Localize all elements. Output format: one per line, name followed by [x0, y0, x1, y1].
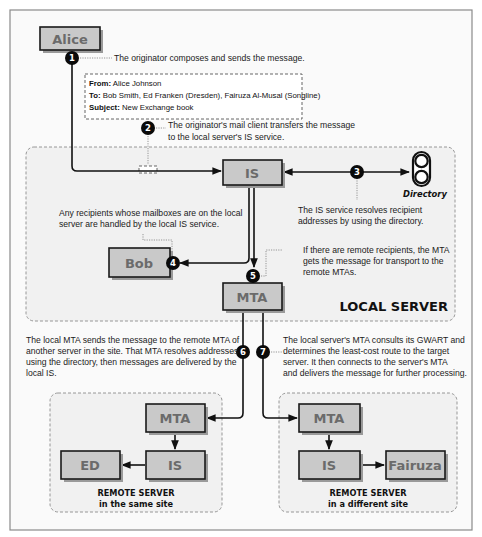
step-marker-1: 1 [65, 51, 79, 65]
remote-same-site-title: REMOTE SERVER [97, 488, 175, 498]
note-step-1: The originator composes and sends the me… [114, 53, 305, 63]
svg-text:1: 1 [69, 53, 75, 63]
message-packet [139, 166, 157, 173]
note-step-3: The IS service resolves recipient addres… [298, 205, 425, 226]
note-step-7: The local server's MTA consults its GWAR… [283, 335, 467, 378]
node-remote1-mta: MTA [146, 404, 208, 435]
step-marker-4: 4 [166, 256, 180, 270]
message-to: To: Bob Smith, Ed Franken (Dresden), Fai… [89, 91, 321, 100]
step-marker-5: 5 [246, 269, 260, 283]
svg-text:IS: IS [168, 458, 182, 473]
node-remote2-mta: MTA [299, 404, 363, 435]
svg-text:IS: IS [245, 166, 259, 181]
remote-same-site-subtitle: in the same site [99, 499, 174, 509]
routing-diagram: LOCAL SERVER REMOTE SERVER in the same s… [0, 0, 482, 537]
svg-text:Fairuza: Fairuza [388, 458, 441, 473]
directory-icon [413, 152, 430, 186]
svg-text:MTA: MTA [237, 290, 268, 305]
node-ed: ED [61, 451, 123, 482]
svg-text:2: 2 [145, 123, 151, 133]
svg-text:IS: IS [322, 458, 336, 473]
node-bob: Bob [109, 248, 173, 280]
step-marker-3: 3 [350, 165, 364, 179]
svg-text:Alice: Alice [52, 32, 88, 47]
svg-text:5: 5 [250, 271, 256, 281]
message-subject: Subject: New Exchange book [89, 103, 194, 112]
svg-text:MTA: MTA [160, 411, 191, 426]
svg-text:7: 7 [260, 347, 266, 357]
node-remote2-is: IS [299, 451, 363, 482]
remote-diff-site-title: REMOTE SERVER [329, 488, 407, 498]
local-server-title: LOCAL SERVER [340, 299, 449, 314]
svg-text:ED: ED [80, 458, 100, 473]
remote-diff-site-subtitle: in a different site [328, 499, 408, 509]
node-remote1-is: IS [146, 451, 208, 482]
node-local-is: IS [223, 160, 285, 188]
note-step-4: Any recipients whose mailboxes are on th… [59, 208, 245, 229]
node-local-mta: MTA [223, 283, 285, 313]
svg-text:3: 3 [354, 167, 360, 177]
node-fairuza: Fairuza [386, 451, 448, 482]
svg-text:4: 4 [170, 258, 176, 268]
svg-text:Bob: Bob [125, 256, 153, 271]
message-from: From: Alice Johnson [89, 79, 161, 88]
directory-label: Directory [403, 189, 447, 199]
svg-text:MTA: MTA [314, 411, 345, 426]
svg-text:6: 6 [240, 347, 246, 357]
step-marker-7: 7 [256, 345, 270, 359]
step-marker-2: 2 [141, 121, 155, 135]
node-alice: Alice [40, 27, 103, 53]
